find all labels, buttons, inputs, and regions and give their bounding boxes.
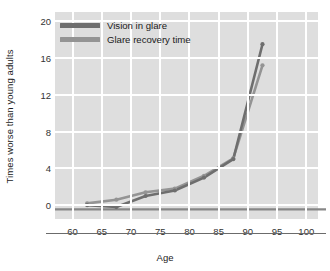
x-axis-tick-label: 70 <box>126 226 137 237</box>
x-axis-tick-label: 75 <box>155 226 166 237</box>
gridline-vertical <box>247 12 249 219</box>
data-point-marker <box>143 190 147 194</box>
x-axis-line <box>46 233 326 234</box>
legend: Vision in glare Glare recovery time <box>60 20 191 45</box>
data-point-marker <box>114 198 118 202</box>
y-axis-title-container: Times worse than young adults <box>0 0 18 232</box>
data-point-marker <box>231 157 235 161</box>
gridline-horizontal <box>55 131 318 133</box>
legend-label-glare-recovery-time: Glare recovery time <box>107 34 191 45</box>
y-axis-tick-label: 12 <box>40 89 51 100</box>
data-point-marker <box>260 63 264 67</box>
x-axis-tick-label: 100 <box>298 226 314 237</box>
x-axis-tick-label: 85 <box>213 226 224 237</box>
gridline-horizontal <box>55 204 318 206</box>
glare-vision-age-chart: Times worse than young adults 6065707580… <box>0 0 330 271</box>
x-axis-title: Age <box>0 252 330 263</box>
legend-swatch-vision-in-glare <box>60 23 100 28</box>
legend-swatch-glare-recovery-time <box>60 37 100 42</box>
x-axis-tick-label: 95 <box>272 226 283 237</box>
x-axis-tick-label: 80 <box>184 226 195 237</box>
gridline-horizontal <box>55 57 318 59</box>
gridline-vertical <box>305 12 307 219</box>
y-axis-tick-label: 16 <box>40 53 51 64</box>
x-axis-tick-label: 90 <box>243 226 254 237</box>
gridline-horizontal <box>55 167 318 169</box>
y-axis-tick-label: 20 <box>40 16 51 27</box>
y-axis-tick-label: 8 <box>46 126 51 137</box>
gridline-vertical <box>276 12 278 219</box>
y-axis-tick-label: 4 <box>46 163 51 174</box>
data-point-marker <box>143 194 147 198</box>
x-axis-tick-label: 60 <box>67 226 78 237</box>
legend-item-glare-recovery-time: Glare recovery time <box>60 34 191 45</box>
data-point-marker <box>202 176 206 180</box>
data-point-marker <box>260 42 264 46</box>
data-point-marker <box>173 188 177 192</box>
gridline-horizontal <box>55 94 318 96</box>
legend-label-vision-in-glare: Vision in glare <box>107 20 167 31</box>
legend-item-vision-in-glare: Vision in glare <box>60 20 191 31</box>
gridline-vertical <box>218 12 220 219</box>
x-axis-tick-label: 65 <box>96 226 107 237</box>
y-axis-title: Times worse than young adults <box>4 49 15 183</box>
y-axis-tick-label: 0 <box>46 200 51 211</box>
series-line <box>87 44 262 207</box>
series-line <box>87 65 262 203</box>
